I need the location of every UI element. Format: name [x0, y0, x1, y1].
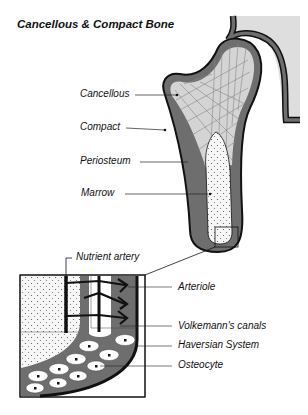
label-haversian-system: Haversian System [178, 339, 259, 350]
label-compact: Compact [80, 121, 120, 132]
label-cancellous: Cancellous [80, 88, 129, 99]
diagram-title: Cancellous & Compact Bone [17, 18, 174, 30]
label-osteocyte: Osteocyte [178, 359, 223, 370]
label-periosteum: Periosteum [80, 155, 131, 166]
label-arteriole: Arteriole [178, 281, 215, 292]
label-marrow: Marrow [81, 187, 114, 198]
label-volkemanns-canals: Volkemann's canals [178, 320, 266, 331]
label-nutrient-artery: Nutrient artery [76, 251, 139, 262]
femur [145, 39, 261, 275]
bone-diagram [0, 0, 308, 415]
detail-panel [20, 258, 145, 397]
